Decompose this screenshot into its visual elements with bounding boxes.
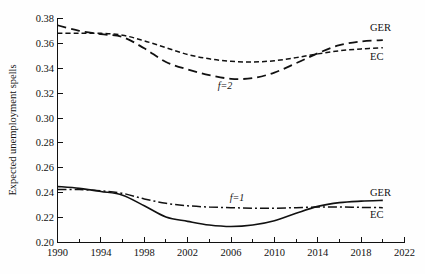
y-tick-label: 0.32 xyxy=(36,88,54,99)
x-axis-tick-labels: 1990 1994 1998 2002 2006 2010 2014 2018 … xyxy=(47,247,415,258)
series-label-f1-ec: EC xyxy=(370,209,383,220)
x-tick-label: 1994 xyxy=(90,247,112,258)
y-tick-label: 0.36 xyxy=(36,38,54,49)
series-label-f2-ger: GER xyxy=(370,22,391,33)
series-line-f2-ec xyxy=(58,33,383,62)
series-label-f2-ec: EC xyxy=(370,51,383,62)
annotation-f1: f=1 xyxy=(230,192,245,203)
x-tick-label: 2018 xyxy=(351,247,372,258)
y-axis-ticks xyxy=(58,18,63,242)
line-chart: Expected unemployment spells 0.20 0.22 0… xyxy=(0,0,425,274)
x-axis-ticks xyxy=(58,237,405,243)
y-tick-label: 0.24 xyxy=(36,187,55,198)
x-tick-label: 2002 xyxy=(177,247,198,258)
annotation-f2: f=2 xyxy=(218,80,233,91)
y-tick-label: 0.30 xyxy=(36,113,54,124)
y-axis-label: Expected unemployment spells xyxy=(7,64,18,195)
y-axis-tick-labels: 0.20 0.22 0.24 0.26 0.28 0.30 0.32 0.34 … xyxy=(36,13,55,248)
chart-figure: Expected unemployment spells 0.20 0.22 0… xyxy=(0,0,425,274)
y-tick-label: 0.26 xyxy=(36,162,54,173)
x-tick-label: 2014 xyxy=(307,247,329,258)
x-tick-label: 2022 xyxy=(394,247,415,258)
y-tick-label: 0.28 xyxy=(36,137,54,148)
x-tick-label: 2006 xyxy=(221,247,242,258)
y-tick-label: 0.38 xyxy=(36,13,54,24)
y-tick-label: 0.34 xyxy=(36,63,55,74)
series-label-f1-ger: GER xyxy=(370,187,391,198)
data-series-group xyxy=(58,25,383,226)
y-tick-label: 0.22 xyxy=(36,212,54,223)
x-tick-label: 1998 xyxy=(134,247,155,258)
x-tick-label: 1990 xyxy=(47,247,68,258)
x-tick-label: 2010 xyxy=(264,247,285,258)
